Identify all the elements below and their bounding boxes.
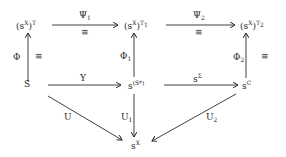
node-base: (s [16, 21, 24, 31]
label-psi2: Ψ2 [193, 11, 205, 21]
node-base: (s [124, 21, 132, 31]
node-exp: T [32, 19, 36, 26]
node-sup: X [136, 139, 140, 146]
node-sup: (S*) [133, 79, 145, 86]
iso-psi2: ≅ [195, 28, 203, 37]
arrow-sub: 1 [87, 14, 91, 21]
iso-psi1: ≅ [81, 28, 89, 37]
label-phi1: Φ1 [120, 52, 131, 62]
label-u2: U2 [206, 113, 217, 123]
arrow-u2 [152, 94, 236, 141]
node-mid-right: sC [242, 80, 251, 91]
arrow-sub: 1 [129, 116, 133, 123]
arrow-name: U [206, 112, 214, 122]
node-top-right: (sX)T2 [240, 20, 264, 31]
node-exp-sub: 2 [260, 21, 264, 28]
node-exp-sub: 1 [144, 21, 148, 28]
arrow-sub: 2 [214, 116, 218, 123]
arrow-u [48, 96, 122, 140]
arrow-name: Ψ [79, 10, 87, 20]
label-u1: U1 [121, 113, 132, 123]
label-u: U [64, 113, 72, 122]
label-y: Y [80, 74, 86, 83]
label-s-sigma: sΣ [193, 73, 202, 84]
node-base: (s [240, 21, 248, 31]
node-mid-left: S [24, 80, 30, 89]
node-mid-mid: s(S*) [128, 80, 144, 91]
label-phi: Φ [13, 53, 20, 62]
arrow-name: Ψ [193, 10, 201, 20]
iso-phi: ≅ [35, 52, 43, 61]
arrow-sub: 2 [240, 56, 244, 63]
node-top-mid: (sX)T1 [124, 20, 148, 31]
label-phi2: Φ2 [233, 53, 244, 63]
label-psi1: Ψ1 [79, 11, 91, 21]
arrow-sub: 1 [127, 55, 131, 62]
iso-phi2: ≅ [261, 52, 269, 61]
node-top-left: (sX)T [16, 20, 36, 31]
arrow-name: U [121, 112, 129, 122]
arrow-sub: 2 [201, 14, 205, 21]
node-text: S [24, 79, 30, 89]
node-sup: C [247, 79, 252, 86]
arrow-sup: Σ [198, 72, 202, 79]
node-bottom: sX [131, 140, 140, 151]
